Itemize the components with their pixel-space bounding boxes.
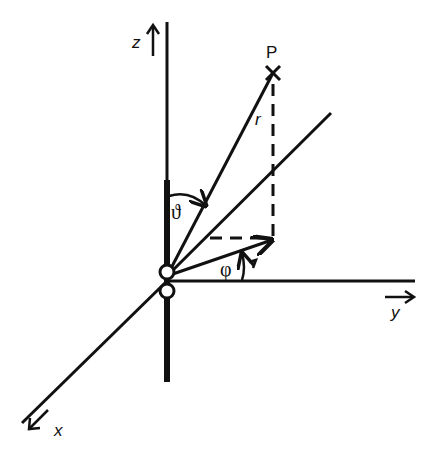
spherical-coordinates-diagram: z y x r P ϑ φ bbox=[0, 0, 438, 451]
radius-label: r bbox=[255, 110, 262, 129]
z-axis-label: z bbox=[131, 33, 141, 52]
y-axis-arrow-icon bbox=[385, 291, 414, 303]
theta-label: ϑ bbox=[171, 201, 181, 223]
point-p-label: P bbox=[266, 43, 277, 62]
auxiliary-diagonal-line bbox=[167, 113, 331, 276]
phi-tick-icon bbox=[249, 260, 256, 268]
origin-circle-upper bbox=[160, 265, 174, 279]
y-axis-label: y bbox=[390, 303, 401, 322]
phi-angle-arc bbox=[242, 253, 244, 280]
phi-label: φ bbox=[220, 258, 232, 281]
origin-circle-lower bbox=[160, 284, 174, 298]
x-axis-label: x bbox=[53, 421, 63, 440]
z-axis-arrow-icon bbox=[147, 25, 159, 56]
x-axis-line bbox=[22, 281, 167, 423]
point-p-marker-icon bbox=[266, 66, 280, 80]
